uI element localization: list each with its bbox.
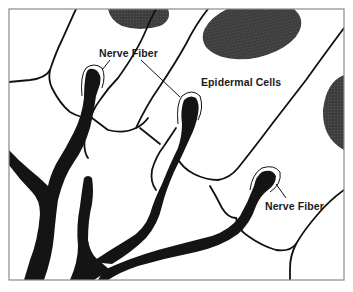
nerve-fibers	[9, 69, 276, 280]
nucleus-top-right	[197, 0, 306, 68]
nerve-fiber-diagram: Nerve Fiber Epidermal Cells Nerve Fiber	[0, 0, 353, 292]
nucleus-right-edge	[323, 75, 344, 150]
cell-outline-12	[140, 128, 160, 144]
cell-outline-1	[9, 9, 76, 82]
diagram-canvas	[0, 0, 353, 292]
label-nerve-fiber-upper: Nerve Fiber	[99, 48, 158, 59]
nucleus-top-center	[108, 9, 169, 29]
nerve-fiber-branch-small	[70, 176, 110, 280]
cell-outline-7	[168, 128, 176, 140]
nerve-fiber-branch-right	[98, 171, 276, 280]
leader-line-nerve-lower	[276, 184, 286, 198]
label-nerve-fiber-lower: Nerve Fiber	[265, 201, 324, 212]
label-epidermal-cells: Epidermal Cells	[201, 77, 281, 88]
leader-line-nerve-upper	[102, 60, 110, 70]
figure-frame	[9, 9, 344, 280]
cell-outline-11	[290, 244, 296, 280]
cell-outline-9	[210, 186, 236, 218]
epidermal-cell-outlines	[9, 9, 344, 280]
